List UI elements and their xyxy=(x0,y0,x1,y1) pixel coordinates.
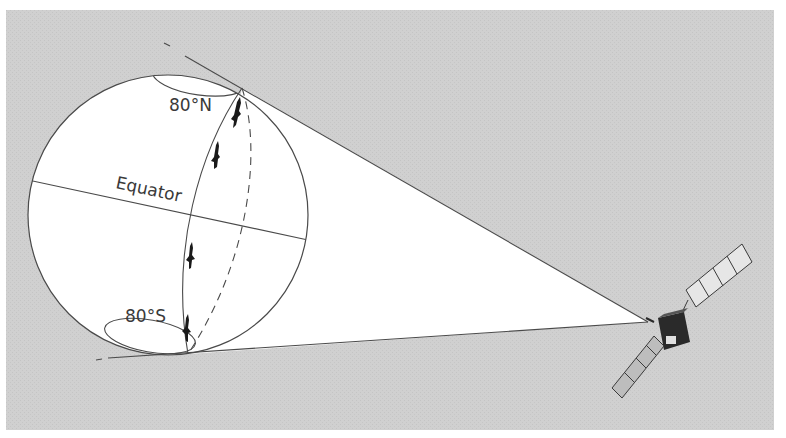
earth-globe xyxy=(28,75,308,355)
south-limit-label: 80°S xyxy=(125,306,166,326)
north-limit-label: 80°N xyxy=(169,95,212,115)
satellite-coverage-diagram: 80°N 80°S Equator xyxy=(0,0,786,438)
